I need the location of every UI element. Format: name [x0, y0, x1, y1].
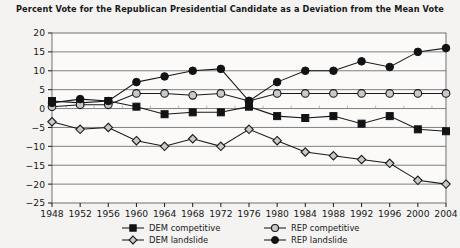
chart-container: −25−20−15−10−505101520194819521956196019… — [0, 0, 460, 248]
data-point-marker — [76, 95, 84, 103]
data-point-marker — [358, 120, 365, 127]
data-point-marker — [414, 48, 422, 56]
x-axis-tick-label: 1972 — [209, 208, 232, 219]
data-point-marker — [189, 92, 197, 100]
x-axis-tick-label: 1980 — [265, 208, 289, 219]
vote-deviation-line-chart: −25−20−15−10−505101520194819521956196019… — [0, 0, 460, 248]
legend-label: REP competitive — [291, 223, 360, 233]
x-axis-tick-label: 1976 — [237, 208, 261, 219]
data-point-marker — [189, 109, 196, 116]
x-axis-tick-label: 1956 — [97, 208, 121, 219]
legend-marker-open-diamond — [129, 236, 137, 244]
data-point-marker — [386, 63, 394, 71]
data-point-marker — [443, 128, 450, 135]
legend-label: DEM landslide — [149, 235, 208, 245]
data-point-marker — [161, 90, 169, 98]
y-axis-tick-label: −10 — [26, 141, 46, 152]
data-point-marker — [330, 90, 338, 98]
data-point-marker — [386, 113, 393, 120]
data-point-marker — [133, 78, 141, 86]
data-point-marker — [48, 99, 56, 107]
x-axis-tick-label: 1960 — [125, 208, 149, 219]
legend-label: DEM competitive — [149, 223, 220, 233]
y-axis-tick-label: 10 — [33, 65, 45, 76]
data-point-marker — [273, 90, 281, 98]
data-point-marker — [189, 67, 197, 75]
x-axis-tick-label: 1992 — [350, 208, 373, 219]
x-axis-tick-label: 2000 — [406, 208, 430, 219]
data-point-marker — [273, 78, 281, 86]
data-point-marker — [274, 113, 281, 120]
data-point-marker — [217, 65, 225, 73]
data-point-marker — [302, 115, 309, 122]
y-axis-tick-label: −20 — [26, 179, 46, 190]
data-point-marker — [301, 90, 309, 98]
y-axis-tick-label: 20 — [33, 27, 45, 38]
x-axis-tick-label: 1964 — [153, 208, 177, 219]
data-point-marker — [414, 126, 421, 133]
x-axis-tick-label: 1948 — [40, 208, 64, 219]
x-axis-tick-label: 2004 — [434, 208, 458, 219]
data-point-marker — [161, 73, 169, 81]
data-point-marker — [414, 90, 422, 98]
legend-label: REP landslide — [291, 235, 347, 245]
data-point-marker — [133, 90, 141, 98]
data-point-marker — [442, 90, 450, 98]
data-point-marker — [104, 97, 112, 105]
x-axis-tick-label: 1952 — [68, 208, 91, 219]
y-axis-tick-label: 15 — [33, 46, 45, 57]
data-point-marker — [358, 90, 366, 98]
data-point-marker — [245, 97, 253, 105]
data-point-marker — [442, 44, 450, 52]
data-point-marker — [217, 90, 225, 98]
x-axis-tick-label: 1996 — [378, 208, 402, 219]
y-axis-tick-label: 0 — [39, 103, 45, 114]
legend-marker-filled-square — [130, 225, 136, 231]
data-point-marker — [217, 109, 224, 116]
x-axis-tick-label: 1968 — [181, 208, 205, 219]
y-axis-tick-label: 5 — [39, 84, 45, 95]
y-axis-tick-label: −15 — [26, 160, 46, 171]
data-point-marker — [301, 67, 309, 75]
legend-marker-open-circle — [272, 225, 279, 232]
data-point-marker — [330, 113, 337, 120]
y-axis-tick-label: −5 — [31, 122, 45, 133]
data-point-marker — [133, 103, 140, 110]
x-axis-tick-label: 1984 — [294, 208, 318, 219]
data-point-marker — [161, 111, 168, 118]
data-point-marker — [330, 67, 338, 75]
data-point-marker — [358, 58, 366, 66]
x-axis-tick-label: 1988 — [322, 208, 346, 219]
legend-marker-filled-circle — [272, 237, 279, 244]
data-point-marker — [386, 90, 394, 98]
y-axis-tick-label: −25 — [26, 197, 46, 208]
